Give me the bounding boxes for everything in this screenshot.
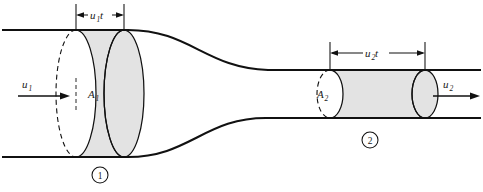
outlet-dim-arrowhead-left: [330, 50, 338, 56]
station-one-number: 1: [98, 171, 103, 181]
outlet-velocity-label-sub: 2: [450, 84, 454, 93]
outlet-area-label-A: A: [316, 88, 324, 100]
inlet-velocity-arrow-group: u 1: [18, 78, 70, 99]
inlet-area-label-A: A: [87, 88, 95, 100]
outlet-fluid-slug: [330, 70, 438, 118]
station-tag-one: 1: [92, 167, 108, 183]
inlet-area-label-sub: 1: [96, 94, 100, 103]
inlet-velocity-label-sub: 1: [29, 84, 33, 93]
outlet-velocity-arrow-group: u 2: [433, 78, 480, 99]
inlet-dim-arrowhead-right: [116, 12, 124, 18]
outlet-slug-length-dimension: u 2 t: [330, 42, 425, 71]
inlet-slug-length-label-u: u: [90, 9, 96, 21]
nozzle-continuity-diagram: u 1 t u 2 t u 1 A 1: [0, 0, 483, 192]
outlet-slug-body: [330, 70, 438, 118]
inlet-dim-arrowhead-left: [76, 12, 84, 18]
inlet-section-ellipse-hidden-half: [56, 30, 76, 157]
station-tag-two: 2: [362, 132, 378, 148]
inlet-slug-length-dimension: u 1 t: [76, 4, 124, 31]
station-two-number: 2: [368, 136, 373, 146]
outlet-dim-arrowhead-right: [417, 50, 425, 56]
outlet-velocity-label-u: u: [443, 78, 449, 90]
outlet-slug-length-label-u: u: [365, 47, 371, 59]
inlet-velocity-label-u: u: [22, 78, 28, 90]
outlet-velocity-arrowhead: [470, 93, 480, 100]
pipe-top-wall: [2, 30, 481, 70]
outlet-area-label-sub: 2: [325, 94, 329, 103]
inlet-velocity-arrowhead: [60, 93, 70, 100]
pipe-bottom-wall: [2, 118, 481, 157]
figure-container: u 1 t u 2 t u 1 A 1: [0, 0, 483, 192]
